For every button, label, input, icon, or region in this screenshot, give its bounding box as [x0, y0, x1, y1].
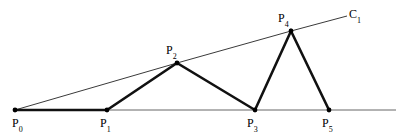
label-p0-sub: 0 — [19, 125, 23, 134]
label-p2: P2 — [166, 44, 177, 56]
label-p1-base: P — [100, 116, 107, 130]
label-c1-base: C — [349, 7, 357, 21]
label-p5: P5 — [322, 117, 333, 129]
label-p5-sub: 5 — [329, 125, 333, 134]
figure-canvas: P0 P1 P2 P3 P4 P5 C1 — [0, 0, 411, 138]
label-p0-base: P — [12, 116, 19, 130]
label-p4: P4 — [278, 12, 289, 24]
label-p2-base: P — [166, 43, 173, 57]
label-p4-base: P — [278, 11, 285, 25]
label-c1: C1 — [349, 8, 361, 20]
vertex-dot-p3 — [253, 108, 258, 113]
vertex-dot-p1 — [105, 108, 110, 113]
vertex-dot-p5 — [327, 108, 332, 113]
label-p2-sub: 2 — [173, 52, 177, 61]
label-p3: P3 — [247, 117, 258, 129]
label-p1: P1 — [100, 117, 111, 129]
vertex-dot-p0 — [13, 108, 18, 113]
vertex-dot-p2 — [175, 61, 180, 66]
label-p3-sub: 3 — [254, 125, 258, 134]
label-p1-sub: 1 — [107, 125, 111, 134]
label-p0: P0 — [12, 117, 23, 129]
upper-hull-line-c1 — [15, 16, 347, 110]
vertex-dot-p4 — [289, 29, 294, 34]
label-c1-sub: 1 — [357, 16, 361, 25]
label-p5-base: P — [322, 116, 329, 130]
label-p4-sub: 4 — [285, 20, 289, 29]
label-p3-base: P — [247, 116, 254, 130]
